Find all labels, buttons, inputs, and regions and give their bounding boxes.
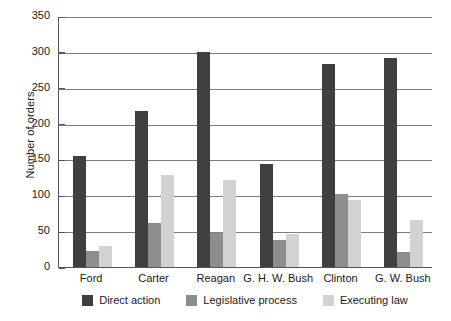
y-tick-label: 300 [32, 45, 50, 57]
y-tick-label: 150 [32, 152, 50, 164]
x-axis-label: G. W. Bush [375, 272, 431, 284]
legend-item: Legislative process [186, 294, 297, 306]
bar [322, 64, 335, 267]
bar-group [322, 17, 361, 267]
y-tick-label: 100 [32, 188, 50, 200]
legend-label: Executing law [340, 294, 408, 306]
x-axis-label: Ford [80, 272, 103, 284]
bar [348, 200, 361, 267]
legend-label: Direct action [99, 294, 160, 306]
bar-chart: Number of orders 050100150200250300350 F… [0, 0, 451, 321]
bar-group [384, 17, 423, 267]
y-axis-title: Number of orders [24, 35, 36, 235]
bar [260, 164, 273, 267]
y-tick-label: 250 [32, 81, 50, 93]
bar [135, 111, 148, 267]
legend-swatch [82, 295, 93, 306]
bar [210, 233, 223, 267]
bar [335, 194, 348, 267]
bars-layer [59, 17, 432, 267]
y-tick-label: 350 [32, 9, 50, 21]
y-tick-mark [59, 268, 65, 269]
bar [99, 246, 112, 268]
bar [273, 240, 286, 267]
legend-label: Legislative process [203, 294, 297, 306]
bar-group [197, 17, 236, 267]
bar [223, 180, 236, 267]
x-axis-label: Reagan [197, 272, 236, 284]
x-axis-label: Carter [138, 272, 169, 284]
x-axis-label: G. H. W. Bush [243, 272, 313, 284]
bar [384, 58, 397, 267]
y-tick-label: 200 [32, 117, 50, 129]
legend-swatch [186, 295, 197, 306]
bar [148, 223, 161, 267]
bar [410, 220, 423, 267]
bar [161, 175, 174, 267]
legend-item: Direct action [82, 294, 160, 306]
plot-area: 050100150200250300350 [58, 17, 432, 268]
bar-group [135, 17, 174, 267]
bar [397, 252, 410, 267]
y-tick-label: 50 [38, 224, 50, 236]
bar [197, 52, 210, 267]
bar [86, 251, 99, 267]
y-tick-label: 0 [44, 260, 50, 272]
bar-group [73, 17, 112, 267]
bar [286, 234, 299, 267]
legend-item: Executing law [323, 294, 408, 306]
bar-group [260, 17, 299, 267]
legend-swatch [323, 295, 334, 306]
chart-legend: Direct actionLegislative processExecutin… [58, 294, 432, 306]
bar [73, 156, 86, 267]
x-axis-label: Clinton [323, 272, 357, 284]
